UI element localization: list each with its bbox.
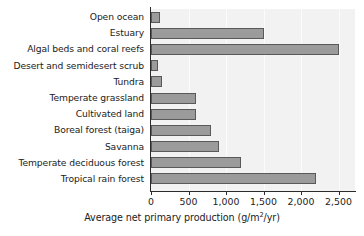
category-label: Algal beds and coral reefs [0,41,148,57]
bar-series [151,9,355,191]
bar [151,125,211,136]
bar-row [151,58,355,74]
x-axis-tick-label: 2,500 [325,196,352,207]
bar-row [151,122,355,138]
x-axis-title-superscript: 2 [260,211,264,219]
x-axis-tick [151,191,152,195]
bar-row [151,155,355,171]
category-label: Cultivated land [0,106,148,122]
plot-area [151,9,355,191]
category-label: Temperate grassland [0,90,148,106]
category-label: Boreal forest (taiga) [0,122,148,138]
x-axis-tick-label: 500 [180,196,198,207]
category-label: Open ocean [0,9,148,25]
x-axis-tick [226,191,227,195]
x-axis-tick [189,191,190,195]
bar [151,109,196,120]
bar-row [151,74,355,90]
bar [151,141,219,152]
bar [151,157,241,168]
x-axis-tick-label: 0 [148,196,154,207]
category-label: Estuary [0,25,148,41]
x-axis-tick-label: 1,000 [213,196,240,207]
x-axis-title: Average net primary production (g/m2/yr) [0,212,364,223]
category-label: Tropical rain forest [0,171,148,187]
category-label: Temperate deciduous forest [0,155,148,171]
bar-row [151,139,355,155]
x-axis-line [150,191,356,192]
category-label: Desert and semidesert scrub [0,58,148,74]
x-axis-tick [339,191,340,195]
bar-row [151,90,355,106]
category-axis-labels: Open oceanEstuaryAlgal beds and coral re… [0,9,148,191]
category-label: Tundra [0,74,148,90]
bar-row [151,25,355,41]
bar-row [151,9,355,25]
category-label: Savanna [0,139,148,155]
bar [151,60,158,71]
y-axis-line [150,7,151,192]
x-axis-tick [264,191,265,195]
bar [151,12,160,23]
bar [151,28,264,39]
bar-row [151,171,355,187]
x-axis-tick-label: 2,000 [288,196,315,207]
bar-chart-figure: Open oceanEstuaryAlgal beds and coral re… [0,0,364,236]
bar [151,93,196,104]
bar-row [151,106,355,122]
bar [151,76,162,87]
x-axis-tick [301,191,302,195]
x-axis-tick-label: 1,500 [250,196,277,207]
bar-row [151,41,355,57]
bar [151,44,339,55]
bar [151,173,316,184]
